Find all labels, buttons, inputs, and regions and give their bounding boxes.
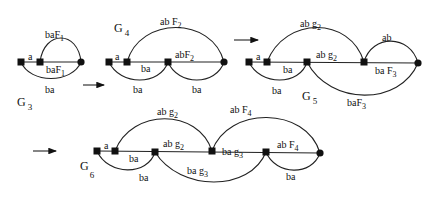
graph-g5: a ab g2 ab ab g2 ba ba F3 ba G5 baF3 <box>246 18 422 111</box>
g3-node-start <box>18 59 25 66</box>
g5-right-top-arc <box>364 41 418 63</box>
g3-label-middle: baF1 <box>46 64 65 78</box>
g5-label-a: a <box>256 51 261 62</box>
g6-node-end <box>316 149 323 156</box>
g4-graph-label: G4 <box>114 21 130 38</box>
g4-label-middle: abF2 <box>175 49 194 63</box>
g6-label-top-2: ab F4 <box>230 104 252 118</box>
g6-bottom-arc-1 <box>97 151 155 170</box>
g4-label-inner-ba: ba <box>141 63 151 74</box>
graph-g6: a ab g2 ab F4 ab g2 ab F4 ba ba g3 G6 ba… <box>80 104 324 183</box>
g6-label-bottom-1: ba <box>139 172 149 183</box>
graph-g3: a baF1 baF1 ba G3 <box>17 29 85 112</box>
g4-label-a: a <box>115 51 120 62</box>
graph-g4: G4 a ab F2 abF2 ba ba ba <box>106 16 228 95</box>
g5-node-2 <box>304 59 311 66</box>
g6-label-bottom-2: ba g3 <box>187 165 208 179</box>
g4-node-2 <box>165 59 172 66</box>
g4-bottom-arc-2 <box>168 62 224 80</box>
g5-label-bottom-1: ba <box>272 85 282 96</box>
g6-label-middle-1: ab g2 <box>163 138 184 152</box>
g3-label-top: baF1 <box>45 29 64 43</box>
g6-graph-label: G6 <box>80 159 95 180</box>
g5-node-1 <box>264 59 271 66</box>
g4-node-start <box>106 59 113 66</box>
g5-label-inner-ba: ba <box>283 64 293 75</box>
g5-node-end <box>414 59 421 66</box>
g5-label-right-middle: ba F3 <box>375 65 397 79</box>
g5-node-3 <box>361 59 368 66</box>
g5-bottom-arc-1 <box>249 62 307 80</box>
g6-bottom-arc-3 <box>266 152 320 170</box>
g3-label-bottom: ba <box>45 84 55 95</box>
g6-label-top-1: ab g2 <box>157 106 178 120</box>
g3-node-1 <box>37 59 44 66</box>
g6-node-4 <box>263 149 270 156</box>
diagram-svg: a baF1 baF1 ba G3 G4 a ab F2 abF2 ba ba … <box>0 0 439 198</box>
g3-graph-label: G3 <box>17 95 33 112</box>
g6-label-inner-ba-g3: ba g3 <box>222 146 243 160</box>
g5-node-start <box>246 59 253 66</box>
g6-label-bottom-3: ba <box>286 171 296 182</box>
graph-transformation-diagram: a baF1 baF1 ba G3 G4 a ab F2 abF2 ba ba … <box>0 0 439 198</box>
g4-label-bottom-2: ba <box>192 84 202 95</box>
g6-bottom-arc-2 <box>155 152 266 182</box>
g5-graph-label: G5 <box>302 89 318 106</box>
g4-node-1 <box>124 59 131 66</box>
g3-node-end <box>77 58 84 65</box>
g5-bottom-arc-2 <box>307 62 418 95</box>
g6-label-a: a <box>104 140 109 151</box>
g4-label-bottom-1: ba <box>133 84 143 95</box>
g6-label-middle-2: ab F4 <box>277 139 299 153</box>
g5-label-bottom-2: baF3 <box>347 97 366 111</box>
g4-bottom-arc-1 <box>109 62 168 80</box>
g6-node-1 <box>112 148 119 155</box>
g6-node-3 <box>209 148 216 155</box>
g6-node-2 <box>152 149 159 156</box>
g4-node-end <box>220 58 227 65</box>
g5-label-top: ab g2 <box>300 18 321 32</box>
g5-label-right-top: ab <box>382 32 391 43</box>
g6-node-start <box>94 148 101 155</box>
g3-label-a: a <box>28 51 33 62</box>
g6-label-inner-ba: ba <box>129 153 139 164</box>
g5-label-middle: ab g2 <box>316 49 337 63</box>
